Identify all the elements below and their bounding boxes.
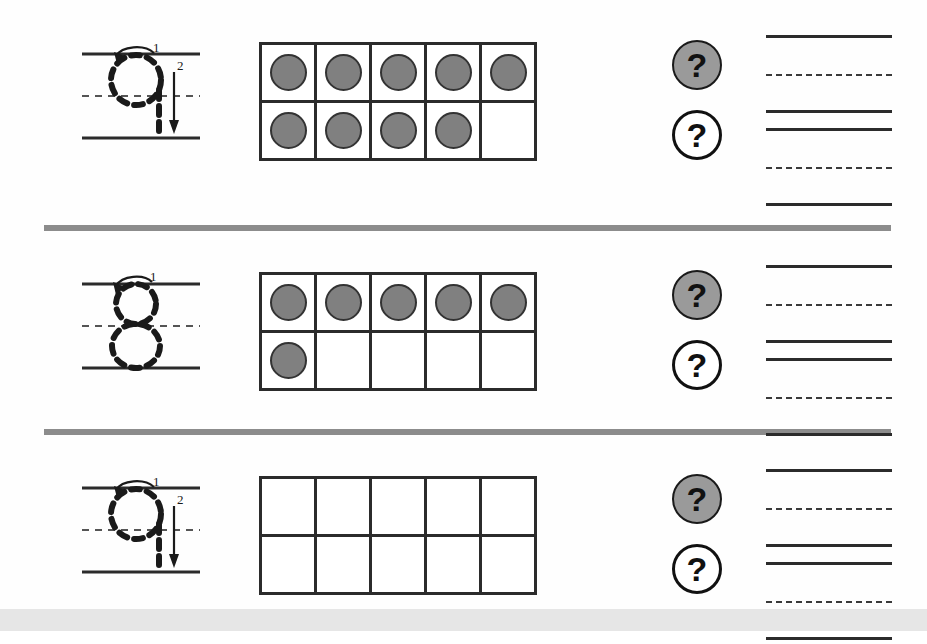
writing-line-dashed[interactable]: [766, 167, 892, 169]
worksheet-row-2: 1??: [0, 252, 927, 452]
ten-frame-cell[interactable]: [482, 45, 537, 103]
ten-frame-cell[interactable]: [482, 333, 537, 391]
question-mark-badge-outline[interactable]: ?: [672, 110, 722, 160]
counter-dot: [435, 54, 472, 91]
ten-frame-cell[interactable]: [262, 333, 317, 391]
digit-trace-guide-8: 1: [78, 270, 206, 378]
question-mark-badge-outline[interactable]: ?: [672, 340, 722, 390]
writing-line-dashed[interactable]: [766, 304, 892, 306]
ten-frame-cell[interactable]: [262, 103, 317, 161]
ten-frame-cell[interactable]: [262, 275, 317, 333]
svg-text:1: 1: [153, 474, 160, 489]
counter-dot: [325, 54, 362, 91]
writing-line-solid[interactable]: [766, 562, 892, 565]
writing-line-solid[interactable]: [766, 128, 892, 131]
ten-frame-cell[interactable]: [427, 333, 482, 391]
worksheet-row-1: 1 2??: [0, 22, 927, 222]
page-bottom-band: [0, 609, 927, 631]
counter-dot: [435, 284, 472, 321]
ten-frame-cell[interactable]: [317, 537, 372, 595]
ten-frame-cell[interactable]: [427, 45, 482, 103]
writing-lines-group: [766, 252, 894, 452]
ten-frame-cell[interactable]: [427, 537, 482, 595]
writing-line-solid[interactable]: [766, 203, 892, 206]
ten-frame-cell[interactable]: [372, 333, 427, 391]
writing-line-solid[interactable]: [766, 433, 892, 436]
writing-line-solid[interactable]: [766, 469, 892, 472]
svg-text:2: 2: [177, 58, 184, 73]
counter-dot: [380, 54, 417, 91]
ten-frame-grid: [259, 42, 537, 161]
ten-frame-cell[interactable]: [372, 45, 427, 103]
svg-text:1: 1: [150, 269, 157, 284]
answer-badge-group: ??: [672, 40, 728, 160]
counter-dot: [490, 284, 527, 321]
counter-dot: [380, 284, 417, 321]
ten-frame-cell[interactable]: [372, 103, 427, 161]
counter-dot: [435, 112, 472, 149]
svg-text:1: 1: [153, 40, 160, 55]
digit-trace-guide-9: 1 2: [78, 40, 206, 148]
writing-line-solid[interactable]: [766, 637, 892, 640]
answer-badge-group: ??: [672, 474, 728, 594]
counter-dot: [270, 54, 307, 91]
writing-line-dashed[interactable]: [766, 508, 892, 510]
question-mark-badge-filled[interactable]: ?: [672, 474, 722, 524]
writing-line-solid[interactable]: [766, 340, 892, 343]
row-separator-1: [44, 225, 891, 231]
question-mark-badge-filled[interactable]: ?: [672, 270, 722, 320]
ten-frame-cell[interactable]: [427, 275, 482, 333]
question-mark-badge-filled[interactable]: ?: [672, 40, 722, 90]
writing-line-solid[interactable]: [766, 265, 892, 268]
writing-line-dashed[interactable]: [766, 601, 892, 603]
ten-frame-cell[interactable]: [427, 103, 482, 161]
counter-dot: [325, 112, 362, 149]
digit-trace-guide-9: 1 2: [78, 474, 206, 582]
svg-text:2: 2: [177, 492, 184, 507]
ten-frame-cell[interactable]: [317, 45, 372, 103]
ten-frame-cell[interactable]: [372, 537, 427, 595]
ten-frame-cell[interactable]: [482, 479, 537, 537]
ten-frame-cell[interactable]: [317, 275, 372, 333]
writing-line-dashed[interactable]: [766, 74, 892, 76]
counter-dot: [490, 54, 527, 91]
counter-dot: [270, 342, 307, 379]
ten-frame-cell[interactable]: [262, 537, 317, 595]
counter-dot: [325, 284, 362, 321]
ten-frame-cell[interactable]: [317, 479, 372, 537]
ten-frame-cell[interactable]: [372, 479, 427, 537]
writing-line-solid[interactable]: [766, 110, 892, 113]
writing-line-dashed[interactable]: [766, 397, 892, 399]
ten-frame-cell[interactable]: [427, 479, 482, 537]
ten-frame-cell[interactable]: [482, 537, 537, 595]
ten-frame-cell[interactable]: [372, 275, 427, 333]
writing-line-solid[interactable]: [766, 544, 892, 547]
ten-frame-cell[interactable]: [317, 333, 372, 391]
ten-frame-grid: [259, 476, 537, 595]
writing-line-solid[interactable]: [766, 358, 892, 361]
ten-frame-cell[interactable]: [262, 45, 317, 103]
writing-lines-group: [766, 22, 894, 222]
counter-dot: [270, 112, 307, 149]
answer-badge-group: ??: [672, 270, 728, 390]
ten-frame-cell[interactable]: [262, 479, 317, 537]
counter-dot: [270, 284, 307, 321]
counter-dot: [380, 112, 417, 149]
ten-frame-cell[interactable]: [482, 103, 537, 161]
question-mark-badge-outline[interactable]: ?: [672, 544, 722, 594]
ten-frame-grid: [259, 272, 537, 391]
writing-line-solid[interactable]: [766, 35, 892, 38]
ten-frame-cell[interactable]: [482, 275, 537, 333]
ten-frame-cell[interactable]: [317, 103, 372, 161]
